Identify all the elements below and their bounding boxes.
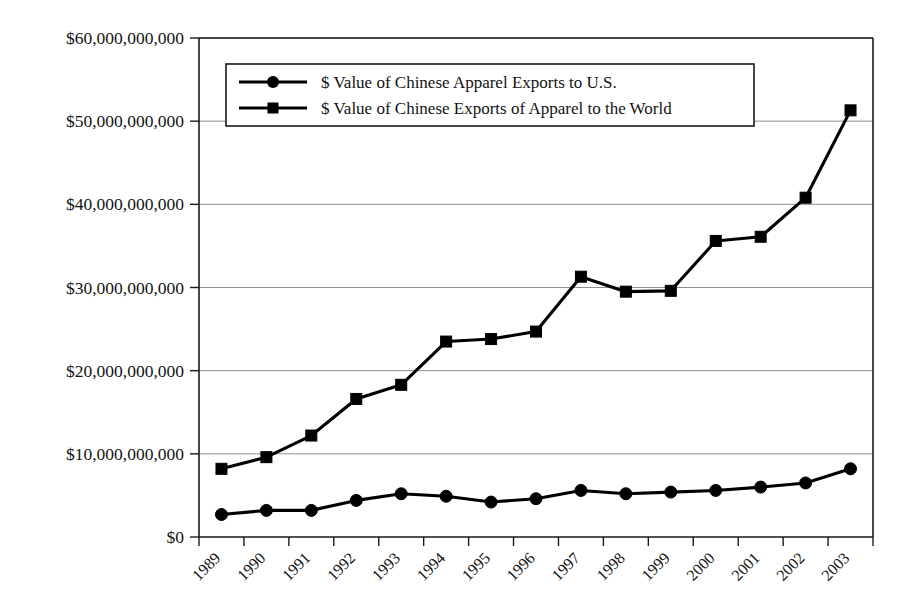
data-point-square xyxy=(755,231,766,242)
y-axis-tick-label: $40,000,000,000 xyxy=(66,194,184,214)
x-axis-tick-label: 2001 xyxy=(728,549,763,584)
chart-container: $0$10,000,000,000$20,000,000,000$30,000,… xyxy=(0,0,905,609)
x-axis-tick-label: 1993 xyxy=(369,549,404,584)
data-point-square xyxy=(665,285,676,296)
data-point-circle xyxy=(710,484,722,496)
data-point-square xyxy=(845,105,856,116)
data-point-circle xyxy=(845,463,857,475)
legend-marker-circle xyxy=(267,76,279,88)
y-axis-tick-label: $0 xyxy=(167,527,185,547)
data-point-square xyxy=(441,336,452,347)
x-axis-tick-label: 2000 xyxy=(683,549,718,584)
chart-legend: $ Value of Chinese Apparel Exports to U.… xyxy=(226,64,754,126)
data-point-circle xyxy=(800,477,812,489)
x-axis-tick-label: 1995 xyxy=(459,549,494,584)
data-point-circle xyxy=(305,504,317,516)
data-point-circle xyxy=(575,484,587,496)
x-axis-tick-label: 1991 xyxy=(279,549,314,584)
data-point-square xyxy=(710,235,721,246)
data-series xyxy=(216,105,856,474)
data-point-circle xyxy=(755,481,767,493)
x-axis-tick-marks xyxy=(199,537,873,546)
y-axis-tick-label: $20,000,000,000 xyxy=(66,361,184,381)
data-point-square xyxy=(531,326,542,337)
y-axis-tick-marks xyxy=(190,38,199,537)
data-point-circle xyxy=(350,494,362,506)
y-axis-tick-label: $60,000,000,000 xyxy=(66,28,184,48)
x-axis-tick-label: 2002 xyxy=(773,549,808,584)
x-axis-tick-label: 1996 xyxy=(503,549,538,584)
data-point-circle xyxy=(530,493,542,505)
y-axis-tick-label: $50,000,000,000 xyxy=(66,111,184,131)
data-series xyxy=(215,463,856,521)
line-chart: $0$10,000,000,000$20,000,000,000$30,000,… xyxy=(0,0,905,609)
x-axis-tick-labels: 1989199019911992199319941995199619971998… xyxy=(189,549,853,584)
data-point-square xyxy=(216,463,227,474)
data-point-square xyxy=(396,379,407,390)
data-series-group xyxy=(215,105,856,521)
y-axis-tick-labels: $0$10,000,000,000$20,000,000,000$30,000,… xyxy=(66,28,184,547)
data-point-circle xyxy=(215,509,227,521)
x-axis-tick-label: 1989 xyxy=(189,549,224,584)
data-point-square xyxy=(261,452,272,463)
data-point-circle xyxy=(260,504,272,516)
data-point-square xyxy=(486,334,497,345)
data-point-circle xyxy=(620,488,632,500)
data-point-square xyxy=(351,393,362,404)
data-point-square xyxy=(620,286,631,297)
data-point-square xyxy=(800,192,811,203)
series-line xyxy=(221,110,850,468)
y-axis-tick-label: $10,000,000,000 xyxy=(66,444,184,464)
x-axis-tick-label: 1990 xyxy=(234,549,269,584)
data-point-circle xyxy=(665,486,677,498)
data-point-square xyxy=(575,271,586,282)
data-point-circle xyxy=(440,490,452,502)
legend-entry-label: $ Value of Chinese Exports of Apparel to… xyxy=(321,99,672,118)
x-axis-tick-label: 2003 xyxy=(818,549,853,584)
legend-marker-square xyxy=(268,103,279,114)
x-axis-tick-label: 1997 xyxy=(548,549,583,584)
x-axis-tick-label: 1999 xyxy=(638,549,673,584)
legend-entry-label: $ Value of Chinese Apparel Exports to U.… xyxy=(321,73,617,92)
data-point-circle xyxy=(395,488,407,500)
x-axis-tick-label: 1994 xyxy=(414,549,449,584)
data-point-square xyxy=(306,430,317,441)
x-axis-tick-label: 1992 xyxy=(324,549,359,584)
x-axis-tick-label: 1998 xyxy=(593,549,628,584)
data-point-circle xyxy=(485,496,497,508)
y-axis-tick-label: $30,000,000,000 xyxy=(66,278,184,298)
